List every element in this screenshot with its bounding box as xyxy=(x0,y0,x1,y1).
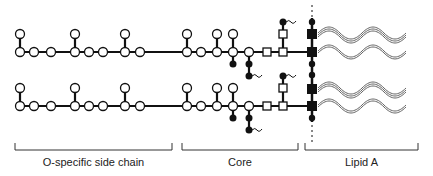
lipid-a-bracket xyxy=(305,143,418,150)
lps-diagram xyxy=(0,0,433,176)
o-chain-bracket xyxy=(15,143,172,150)
core-bracket xyxy=(182,143,298,150)
lipid-a-label: Lipid A xyxy=(305,156,418,168)
core-label: Core xyxy=(182,156,298,168)
o-chain-label: O-specific side chain xyxy=(15,156,172,168)
